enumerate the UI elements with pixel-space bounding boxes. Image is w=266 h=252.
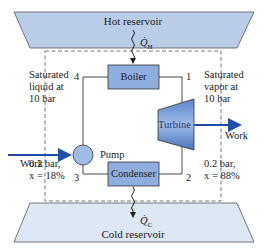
state-1: 1	[186, 71, 191, 83]
note-line: x = 18%	[29, 170, 65, 182]
note-line: Saturated	[29, 69, 69, 81]
state-2: 2	[186, 172, 191, 184]
note-line: vapor at	[204, 81, 244, 93]
work-in-label: Work	[20, 158, 43, 170]
work-out-label: Work	[225, 130, 248, 142]
left-top-note: Saturated liquid at 10 bar	[29, 69, 69, 105]
heat-out-symbol: Q̇	[140, 215, 148, 226]
right-bottom-note: 0.2 bar, x = 88%	[204, 158, 240, 182]
right-top-note: Saturated vapor at 10 bar	[204, 69, 244, 105]
note-line: 10 bar	[29, 93, 69, 105]
condenser-label: Condenser	[108, 168, 159, 180]
note-line: x = 88%	[204, 170, 240, 182]
note-line: 10 bar	[204, 93, 244, 105]
hot-reservoir-label: Hot reservoir	[0, 15, 266, 27]
state-4: 4	[74, 71, 79, 83]
heat-in-label: Q̇H	[140, 37, 153, 53]
state-3: 3	[74, 172, 79, 184]
cold-reservoir-label: Cold reservoir	[0, 228, 266, 240]
pump-circle	[73, 145, 93, 165]
rankine-cycle-diagram: Hot reservoir Q̇H Boiler Condenser Pump …	[0, 0, 266, 252]
note-line: liquid at	[29, 81, 69, 93]
heat-in-symbol: Q̇	[140, 37, 148, 48]
diagram-graphics	[0, 0, 266, 252]
pump-label: Pump	[100, 149, 125, 161]
turbine-label: Turbine	[158, 119, 191, 131]
boiler-label: Boiler	[108, 71, 159, 83]
heat-in-subscript: H	[148, 43, 153, 51]
note-line: 0.2 bar,	[204, 158, 240, 170]
note-line: Saturated	[204, 69, 244, 81]
